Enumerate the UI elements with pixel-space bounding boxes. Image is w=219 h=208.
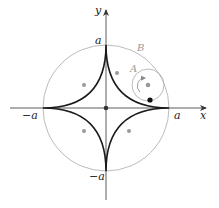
curve-marker-q1 [115, 71, 119, 75]
rotation-arrow-icon [137, 78, 145, 92]
curve-marker-q2 [82, 83, 86, 87]
tick-label-neg-y: −a [89, 170, 105, 183]
tick-label-neg-x: −a [22, 109, 38, 122]
tick-label-pos-x: a [174, 109, 181, 122]
tick-label-pos-y: a [95, 34, 102, 47]
x-axis-label: x [200, 109, 207, 122]
curve-marker-q4 [127, 129, 131, 133]
astroid-diagram: y x a −a −a a B A [0, 0, 219, 208]
y-axis-label: y [94, 4, 102, 17]
circle-a-center [146, 83, 151, 88]
circle-b-label: B [136, 42, 144, 53]
tracing-point [147, 97, 152, 102]
circle-a-label: A [129, 63, 137, 74]
curve-marker-q3 [82, 129, 86, 133]
origin-dot [104, 106, 109, 111]
